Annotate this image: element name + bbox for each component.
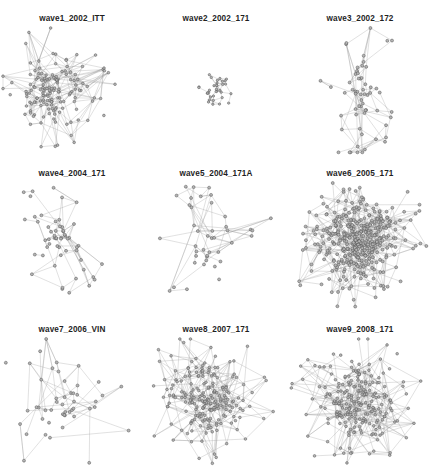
network-graph (288, 336, 432, 466)
panel-title: wave4_2004_171 (0, 169, 144, 178)
network-panel-4: wave4_2004_171 (0, 169, 144, 310)
graph-edges (154, 339, 274, 463)
graph-canvas (144, 25, 288, 155)
network-panel-3: wave3_2002_172 (288, 14, 432, 155)
panel-title: wave3_2002_172 (288, 14, 432, 23)
network-graph (144, 25, 288, 155)
graph-canvas (0, 336, 144, 466)
graph-nodes (298, 182, 428, 309)
network-panel-grid: wave1_2002_ITTwave2_2002_171wave3_2002_1… (0, 0, 432, 466)
top-cut-off-row (0, 0, 432, 6)
graph-canvas (144, 336, 288, 466)
graph-nodes (152, 337, 274, 464)
panel-title: wave1_2002_ITT (0, 14, 144, 23)
network-graph (0, 336, 144, 466)
panel-title: wave2_2002_171 (144, 14, 288, 23)
graph-canvas (288, 336, 432, 466)
network-panel-2: wave2_2002_171 (144, 14, 288, 155)
network-panel-9: wave9_2008_171 (288, 325, 432, 466)
network-panel-8: wave8_2007_171 (144, 325, 288, 466)
graph-canvas (288, 180, 432, 310)
graph-canvas (144, 180, 288, 310)
network-graph (288, 180, 432, 310)
network-graph (0, 180, 144, 310)
network-graph (0, 25, 144, 155)
panel-title: wave6_2005_171 (288, 169, 432, 178)
network-graph (144, 180, 288, 310)
graph-nodes (319, 26, 394, 153)
panel-title: wave5_2004_171A (144, 169, 288, 178)
graph-nodes (4, 337, 130, 464)
network-panel-7: wave7_2006_VIN (0, 325, 144, 466)
network-panel-1: wave1_2002_ITT (0, 14, 144, 155)
graph-edges (3, 28, 115, 147)
graph-nodes (290, 337, 422, 464)
graph-nodes (22, 187, 103, 295)
network-graph (144, 336, 288, 466)
graph-canvas (0, 180, 144, 310)
network-panel-5: wave5_2004_171A (144, 169, 288, 310)
panel-title: wave8_2007_171 (144, 325, 288, 334)
graph-nodes (2, 27, 117, 148)
graph-canvas (288, 25, 432, 155)
graph-edges (24, 188, 102, 293)
panel-title: wave9_2008_171 (288, 325, 432, 334)
network-graph (288, 25, 432, 155)
graph-canvas (0, 25, 144, 155)
network-panel-6: wave6_2005_171 (288, 169, 432, 310)
panel-title: wave7_2006_VIN (0, 325, 144, 334)
